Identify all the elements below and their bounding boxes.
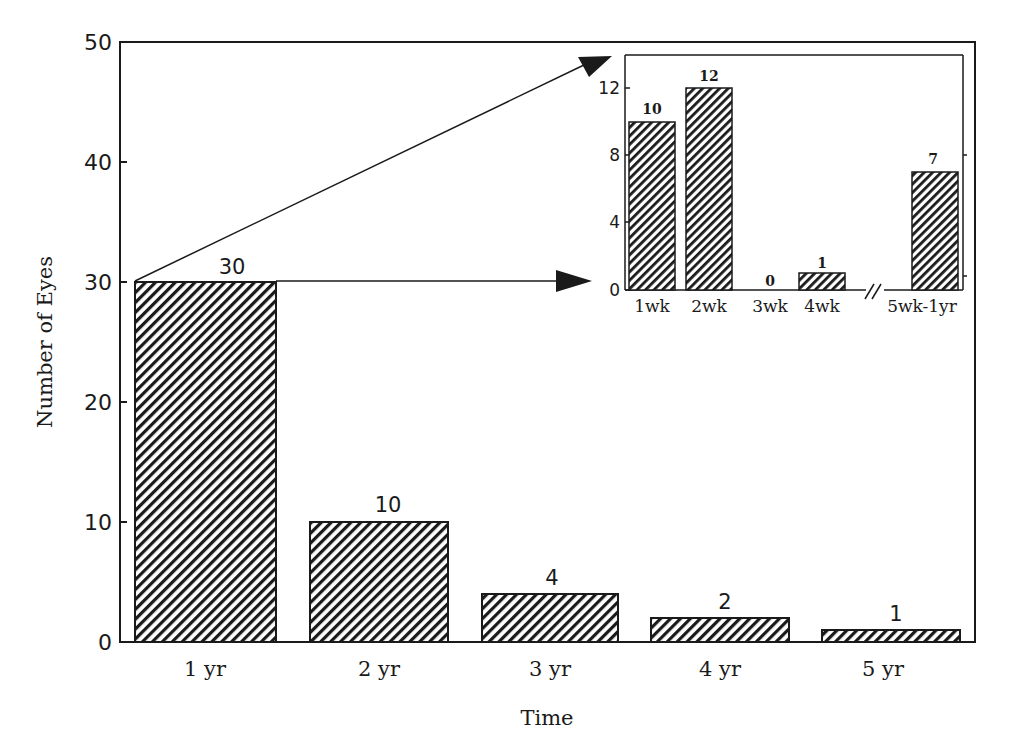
inset-plot: 0 4 8 12 10 1wk 12 2wk 0 3wk 1 4wk 7 5w xyxy=(598,54,967,316)
inset-bar-4wk xyxy=(799,273,845,290)
inset-bar-2wk xyxy=(686,88,732,290)
inset-bar-1wk xyxy=(629,122,675,290)
inset-x-tick-label: 5wk-1yr xyxy=(887,296,958,316)
bar-value-label: 1 xyxy=(889,602,902,626)
inset-y-tick-label: 0 xyxy=(609,280,620,300)
x-tick-label: 2 yr xyxy=(358,657,401,681)
x-tick-label: 4 yr xyxy=(699,657,742,681)
bar-1yr xyxy=(135,282,276,642)
y-tick-label: 40 xyxy=(84,150,112,175)
inset-y-tick-label: 12 xyxy=(598,78,620,98)
x-tick-label: 1 yr xyxy=(184,657,227,681)
bar-value-label: 2 xyxy=(718,590,731,614)
chart-canvas: 0 10 20 30 40 50 Number of Eyes Time 30 … xyxy=(0,0,1009,741)
inset-x-tick-label: 4wk xyxy=(804,296,840,316)
arrow-line-upper xyxy=(135,64,586,281)
bar-value-label: 4 xyxy=(545,566,558,590)
inset-bar-value-label: 0 xyxy=(765,273,775,289)
y-tick-label: 10 xyxy=(84,510,112,535)
y-axis-title: Number of Eyes xyxy=(33,256,57,428)
inset-bar-value-label: 7 xyxy=(928,151,938,167)
y-tick-label: 50 xyxy=(84,30,112,55)
inset-x-tick-label: 2wk xyxy=(691,296,727,316)
y-tick-label: 30 xyxy=(84,270,112,295)
callout-arrows xyxy=(135,56,612,292)
inset-bar-5wk-1yr xyxy=(912,172,958,290)
bar-3yr xyxy=(482,594,618,642)
inset-y-tick-label: 8 xyxy=(609,145,620,165)
bar-value-label: 30 xyxy=(219,255,246,279)
x-tick-label: 3 yr xyxy=(529,657,572,681)
bar-value-label: 10 xyxy=(375,493,402,517)
main-bars: 30 1 yr 10 2 yr 4 3 yr 2 4 yr 1 5 yr xyxy=(135,255,960,681)
bar-5yr xyxy=(822,630,960,642)
inset-x-tick-label: 1wk xyxy=(634,296,670,316)
bar-2yr xyxy=(310,522,448,642)
inset-x-tick-label: 3wk xyxy=(752,296,788,316)
inset-bar-value-label: 1 xyxy=(817,255,827,271)
y-tick-label: 0 xyxy=(98,630,112,655)
arrowhead-upper-icon xyxy=(578,56,612,77)
y-tick-label: 20 xyxy=(84,390,112,415)
inset-bar-value-label: 12 xyxy=(699,68,718,84)
inset-y-tick-label: 4 xyxy=(609,212,620,232)
x-axis-title: Time xyxy=(520,706,573,730)
arrowhead-lower-icon xyxy=(556,270,592,292)
bar-4yr xyxy=(651,618,789,642)
x-tick-label: 5 yr xyxy=(862,657,905,681)
inset-bar-value-label: 10 xyxy=(642,101,662,117)
